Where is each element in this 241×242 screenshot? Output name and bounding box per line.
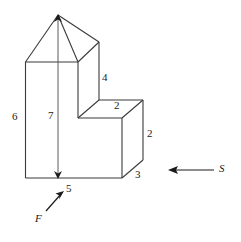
edge-roof-apex-to-front-left: [26, 15, 59, 62]
label-left-height: 6: [12, 111, 18, 122]
label-total-height: 7: [48, 110, 54, 121]
label-base-width: 5: [66, 183, 72, 194]
solid-outline: [26, 15, 144, 178]
side-view-arrow: [168, 166, 214, 174]
label-step-top-depth: 2: [114, 100, 120, 111]
label-step-right-height: 2: [147, 128, 153, 139]
geometry-figure: 6 7 4 2 2 3 5 F S: [0, 0, 241, 242]
label-base-depth: 3: [135, 169, 141, 180]
edge-depth-step-right: [122, 100, 143, 118]
edge-depth-step-inner: [78, 100, 99, 118]
height-dimension-arrow: [54, 14, 62, 179]
solid-diagram-svg: [0, 0, 241, 242]
label-front-view: F: [35, 213, 42, 224]
label-upper-right-height: 4: [102, 72, 108, 83]
front-view-arrow: [46, 191, 64, 211]
label-side-view: S: [219, 163, 225, 174]
edge-roof-eave-depth: [78, 42, 99, 62]
front-view-arrow-shaft: [46, 194, 61, 211]
